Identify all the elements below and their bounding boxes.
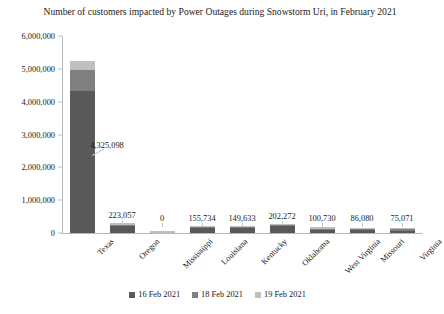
x-axis-category-label: Louisiana (220, 237, 250, 267)
bar-data-label: 0 (160, 214, 164, 223)
bar-column[interactable] (270, 224, 295, 233)
legend-swatch-icon (192, 292, 198, 298)
y-axis-tick-mark (58, 134, 62, 135)
bar-segment[interactable] (150, 231, 175, 233)
x-axis-category-label: West Virginia (343, 237, 382, 276)
y-axis-tick-mark (58, 36, 62, 37)
bar-segment[interactable] (70, 61, 95, 69)
x-axis-category-label: Kentucky (260, 237, 289, 266)
y-axis-tick-label: 5,000,000 (22, 64, 63, 73)
bar-data-label: 149,633 (228, 214, 255, 223)
bar-segment[interactable] (350, 230, 375, 233)
data-label-leader-line (122, 220, 123, 224)
bar-segment[interactable] (310, 230, 335, 233)
data-label-leader-line (322, 223, 323, 227)
bar-data-label: 223,057 (108, 211, 135, 220)
plot-area: 6,000,0005,000,0004,000,0003,000,0002,00… (62, 36, 422, 233)
bar-column[interactable] (390, 228, 415, 233)
y-axis-tick-label: 3,000,000 (22, 130, 63, 139)
x-axis-category-label: Oregon (137, 237, 161, 261)
bar-column[interactable] (110, 223, 135, 233)
data-label-leader-line (162, 223, 163, 227)
y-axis-tick-mark (58, 200, 62, 201)
data-label-leader-line (362, 223, 363, 227)
legend-label: 18 Feb 2021 (201, 290, 243, 299)
legend-item[interactable]: 18 Feb 2021 (192, 290, 243, 299)
x-axis-category-label: Missouri (379, 237, 406, 264)
bar-segment[interactable] (190, 228, 215, 233)
data-label-leader-line (202, 223, 203, 227)
y-axis-tick-label: 6,000,000 (22, 32, 63, 41)
y-axis-tick-mark (58, 68, 62, 69)
bar-data-label: 4,325,098 (90, 141, 124, 150)
bar-segment[interactable] (110, 226, 135, 233)
chart-title: Number of customers impacted by Power Ou… (40, 5, 400, 18)
bar-data-label: 75,071 (390, 214, 413, 223)
x-axis-line (62, 233, 422, 234)
legend-item[interactable]: 19 Feb 2021 (255, 290, 306, 299)
bar-column[interactable] (310, 227, 335, 233)
bar-data-label: 155,734 (188, 214, 215, 223)
chart-legend: 16 Feb 202118 Feb 202119 Feb 2021 (0, 290, 435, 299)
x-axis-category-label: Virginia (418, 237, 444, 263)
x-axis-category-label: Mississippi (181, 237, 214, 270)
legend-swatch-icon (129, 292, 135, 298)
bar-segment[interactable] (70, 70, 95, 91)
y-axis-tick-label: 2,000,000 (22, 163, 63, 172)
y-axis-tick-mark (58, 167, 62, 168)
legend-swatch-icon (255, 292, 261, 298)
data-label-leader-line (402, 223, 403, 227)
bar-column[interactable] (150, 231, 175, 233)
bar-segment[interactable] (270, 226, 295, 233)
y-axis-tick-label: 1,000,000 (22, 196, 63, 205)
legend-label: 16 Feb 2021 (138, 290, 180, 299)
legend-item[interactable]: 16 Feb 2021 (129, 290, 180, 299)
x-axis-category-label: Texas (96, 237, 116, 257)
data-label-leader-line (282, 221, 283, 225)
bar-data-label: 100,730 (308, 214, 335, 223)
x-axis-category-label: Oklahoma (300, 237, 331, 268)
bar-segment[interactable] (390, 231, 415, 233)
legend-label: 19 Feb 2021 (264, 290, 306, 299)
bar-data-label: 202,272 (268, 212, 295, 221)
bar-segment[interactable] (70, 91, 95, 233)
y-axis-tick-mark (58, 101, 62, 102)
bar-data-label: 86,080 (350, 214, 373, 223)
y-axis-tick-label: 4,000,000 (22, 97, 63, 106)
data-label-leader-line (242, 223, 243, 227)
bar-column[interactable] (350, 228, 375, 233)
bar-segment[interactable] (230, 228, 255, 233)
y-axis-tick-mark (58, 233, 62, 234)
